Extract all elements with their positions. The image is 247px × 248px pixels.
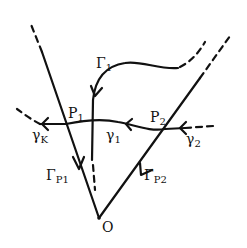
curve-Gamma1-dashed: [180, 42, 205, 67]
label-gamma1: γ1: [106, 128, 121, 145]
curve-Gamma1-lower-dashed: [93, 165, 95, 190]
diagram-canvas: [0, 0, 247, 248]
origin-point: [97, 216, 101, 220]
curve-gammak-dashed: [17, 109, 40, 124]
ray-op1-dashed: [30, 22, 42, 52]
label-gamma2: γ2: [186, 132, 201, 149]
label-P2: P2: [150, 110, 166, 127]
ray-op1: [42, 52, 99, 218]
label-Gamma1: Γ1: [96, 56, 112, 73]
ray-op2: [99, 78, 200, 218]
label-Gamma-P1: ΓP1: [46, 168, 69, 185]
label-origin: O: [102, 220, 113, 234]
label-P1: P1: [68, 106, 84, 123]
curve-gamma2-dashed: [185, 126, 213, 128]
label-gammaK: γK: [32, 128, 48, 145]
label-Gamma-P2: ΓP2: [144, 168, 167, 185]
